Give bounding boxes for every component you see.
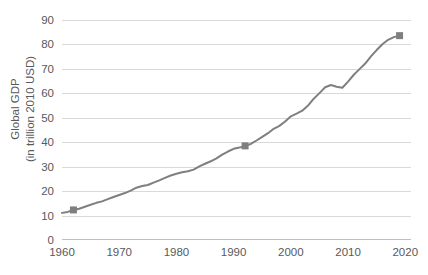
x-axis-tick-label: 1990 — [221, 246, 247, 258]
y-axis-tick-label: 0 — [48, 234, 54, 246]
x-axis-tick-label: 2010 — [335, 246, 361, 258]
x-axis-tick-label: 1970 — [106, 246, 132, 258]
x-axis-tick-label: 1980 — [164, 246, 190, 258]
y-axis-tick-labels: 0102030405060708090 — [0, 0, 62, 275]
x-axis-tick-label: 1960 — [49, 246, 75, 258]
y-axis-tick-label: 20 — [41, 185, 54, 197]
series-global-gdp — [62, 20, 411, 240]
y-axis-tick-label: 90 — [41, 14, 54, 26]
x-axis-tick-label: 2000 — [278, 246, 304, 258]
y-axis-tick-label: 10 — [41, 210, 54, 222]
y-axis-tick-label: 50 — [41, 112, 54, 124]
data-point-marker — [242, 142, 249, 149]
x-axis-tick-labels: 1960197019801990200020102020 — [62, 246, 411, 268]
y-axis-tick-label: 30 — [41, 161, 54, 173]
gdp-line-chart: Global GDP (in trillion 2010 USD) 010203… — [0, 0, 428, 275]
data-point-marker — [396, 32, 403, 39]
series-line — [62, 36, 400, 213]
y-axis-tick-label: 80 — [41, 38, 54, 50]
plot-area — [62, 20, 411, 240]
y-axis-tick-label: 40 — [41, 136, 54, 148]
x-axis-tick-label: 2020 — [392, 246, 418, 258]
data-point-marker — [70, 206, 77, 213]
y-axis-tick-label: 70 — [41, 63, 54, 75]
y-axis-tick-label: 60 — [41, 87, 54, 99]
